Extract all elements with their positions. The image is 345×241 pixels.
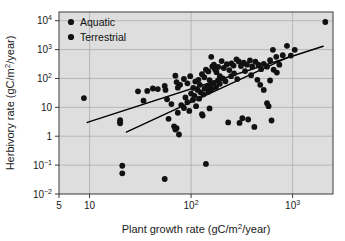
data-point bbox=[175, 110, 181, 116]
data-point bbox=[215, 64, 221, 70]
data-point bbox=[273, 54, 279, 60]
data-point bbox=[270, 47, 276, 53]
data-point bbox=[258, 66, 264, 72]
data-point bbox=[322, 19, 328, 25]
data-point bbox=[269, 118, 275, 124]
scatter-plot-svg: 510102103 10−210−1110102103104 Plant gro… bbox=[0, 0, 345, 241]
x-axis-title: Plant growth rate (gC/m2/year) bbox=[122, 222, 271, 235]
data-point bbox=[166, 116, 172, 122]
data-point bbox=[195, 77, 201, 83]
data-point bbox=[276, 62, 282, 68]
svg-text:5: 5 bbox=[56, 200, 62, 211]
data-point bbox=[185, 99, 191, 105]
data-point bbox=[187, 73, 193, 79]
data-point bbox=[205, 69, 211, 75]
data-point bbox=[119, 170, 125, 176]
data-point bbox=[193, 103, 199, 109]
data-point bbox=[247, 58, 253, 64]
data-point bbox=[255, 77, 261, 83]
data-point bbox=[266, 103, 272, 109]
data-point bbox=[257, 82, 263, 88]
data-point bbox=[231, 70, 237, 76]
data-point bbox=[141, 98, 147, 104]
legend-marker-icon bbox=[68, 19, 74, 25]
data-point bbox=[208, 54, 214, 60]
data-point bbox=[174, 125, 180, 131]
data-point bbox=[248, 72, 254, 78]
data-point bbox=[163, 87, 169, 93]
data-point bbox=[231, 63, 237, 69]
y-axis-title: Herbivory rate (gC/m2/year) bbox=[3, 36, 16, 171]
data-point bbox=[185, 80, 191, 86]
data-point bbox=[196, 96, 202, 102]
data-point bbox=[207, 105, 213, 111]
data-point bbox=[242, 68, 248, 74]
data-point bbox=[234, 76, 240, 82]
data-point bbox=[81, 95, 87, 101]
data-point bbox=[176, 132, 182, 138]
data-point bbox=[117, 117, 123, 123]
data-point bbox=[162, 176, 168, 182]
data-point bbox=[200, 113, 206, 119]
data-point bbox=[169, 101, 175, 107]
svg-text:10: 10 bbox=[41, 102, 53, 113]
data-point bbox=[150, 86, 156, 92]
data-point bbox=[164, 96, 170, 102]
data-point bbox=[284, 43, 290, 49]
data-point bbox=[155, 86, 161, 92]
data-point bbox=[217, 81, 223, 87]
data-point bbox=[274, 70, 280, 76]
data-point bbox=[267, 57, 273, 63]
data-point bbox=[186, 108, 192, 114]
data-point bbox=[135, 88, 141, 94]
data-point bbox=[201, 74, 207, 80]
legend-label-aquatic: Aquatic bbox=[80, 16, 115, 28]
data-point bbox=[177, 82, 183, 88]
data-point bbox=[172, 73, 178, 79]
data-point bbox=[119, 163, 125, 169]
data-point bbox=[239, 115, 245, 121]
legend-label-terrestrial: Terrestrial bbox=[80, 31, 126, 43]
data-point bbox=[264, 64, 270, 70]
data-point bbox=[251, 124, 257, 130]
legend-marker-icon bbox=[68, 34, 74, 40]
svg-text:10: 10 bbox=[84, 200, 96, 211]
data-point bbox=[226, 67, 232, 73]
data-point bbox=[225, 120, 231, 126]
data-point bbox=[181, 105, 187, 111]
svg-text:1: 1 bbox=[46, 131, 52, 142]
data-point bbox=[280, 52, 286, 58]
data-point bbox=[245, 117, 251, 123]
data-point bbox=[261, 87, 267, 93]
data-point bbox=[144, 88, 150, 94]
data-point bbox=[267, 78, 273, 84]
data-point bbox=[219, 58, 225, 64]
data-point bbox=[292, 47, 298, 53]
data-point bbox=[203, 161, 209, 167]
data-point bbox=[249, 64, 255, 70]
data-point bbox=[223, 78, 229, 84]
data-point bbox=[200, 92, 206, 98]
data-point bbox=[288, 53, 294, 59]
data-point bbox=[197, 82, 203, 88]
chart-figure: 510102103 10−210−1110102103104 Plant gro… bbox=[0, 0, 345, 241]
